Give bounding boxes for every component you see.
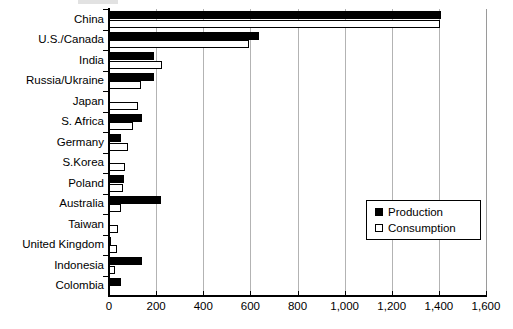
y-tick-13 [103, 276, 109, 277]
bar-production-germany [109, 134, 121, 142]
category-label-colombia: Colombia [0, 279, 104, 291]
bar-production-united-kingdom [109, 237, 111, 245]
y-tick-12 [103, 255, 109, 256]
x-tick-1600 [486, 291, 487, 296]
bar-production-australia [109, 196, 161, 204]
y-tick-4 [103, 91, 109, 92]
x-tick-label-400: 400 [194, 300, 213, 313]
bar-production-poland [109, 175, 124, 183]
bar-production-colombia [109, 278, 121, 286]
bar-production-russia-ukraine [109, 73, 154, 81]
legend-item-consumption: Consumption [375, 220, 480, 236]
category-label-u-s-canada: U.S./Canada [0, 33, 104, 45]
top-edge-artifact [78, 0, 118, 4]
bar-consumption-australia [109, 204, 121, 212]
bar-production-indonesia [109, 257, 142, 265]
filled-square-icon [375, 208, 383, 216]
y-tick-8 [103, 173, 109, 174]
x-tick-400 [203, 291, 204, 296]
legend-label-consumption: Consumption [388, 222, 456, 234]
open-square-icon [375, 224, 383, 232]
y-tick-10 [103, 214, 109, 215]
x-tick-label-200: 200 [147, 300, 166, 313]
bar-consumption-japan [109, 102, 138, 110]
y-tick-5 [103, 112, 109, 113]
y-tick-6 [103, 132, 109, 133]
bar-production-u-s-canada [109, 32, 259, 40]
bar-consumption-united-kingdom [109, 245, 117, 253]
bar-consumption-s-africa [109, 122, 133, 130]
x-tick-label-1600: 1,600 [472, 300, 501, 313]
bar-consumption-germany [109, 143, 128, 151]
category-label-russia-ukraine: Russia/Ukraine [0, 74, 104, 86]
bar-production-china [109, 11, 441, 19]
y-tick-7 [103, 153, 109, 154]
bar-consumption-s-korea [109, 163, 125, 171]
gridline-1600 [486, 9, 487, 296]
y-tick-3 [103, 71, 109, 72]
x-tick-800 [298, 291, 299, 296]
chart-legend: Production Consumption [366, 200, 481, 240]
y-tick-0 [103, 9, 109, 10]
bar-consumption-u-s-canada [109, 40, 249, 48]
plot-area [109, 9, 486, 296]
x-tick-1200 [392, 291, 393, 296]
category-label-united-kingdom: United Kingdom [0, 238, 104, 250]
gridline-1400 [439, 9, 440, 296]
gridline-800 [298, 9, 299, 296]
x-tick-200 [156, 291, 157, 296]
bar-consumption-china [109, 20, 440, 28]
y-tick-2 [103, 50, 109, 51]
bar-chart: ChinaU.S./CanadaIndiaRussia/UkraineJapan… [0, 0, 513, 329]
bar-consumption-india [109, 61, 162, 69]
bar-production-india [109, 52, 154, 60]
category-label-china: China [0, 13, 104, 25]
x-tick-label-1000: 1,000 [330, 300, 359, 313]
x-tick-label-1200: 1,200 [377, 300, 406, 313]
category-label-indonesia: Indonesia [0, 259, 104, 271]
x-tick-label-0: 0 [106, 300, 112, 313]
gridline-1000 [345, 9, 346, 296]
legend-item-production: Production [375, 204, 480, 220]
x-tick-0 [109, 291, 110, 296]
y-tick-9 [103, 194, 109, 195]
bar-consumption-taiwan [109, 225, 118, 233]
gridline-200 [156, 9, 157, 296]
y-tick-1 [103, 30, 109, 31]
bar-production-s-africa [109, 114, 142, 122]
category-label-s-korea: S.Korea [0, 156, 104, 168]
category-label-poland: Poland [0, 177, 104, 189]
x-tick-1400 [439, 291, 440, 296]
category-label-australia: Australia [0, 197, 104, 209]
x-tick-label-1400: 1,400 [424, 300, 453, 313]
x-tick-600 [250, 291, 251, 296]
gridline-600 [250, 9, 251, 296]
bar-consumption-poland [109, 184, 123, 192]
category-label-s-africa: S. Africa [0, 115, 104, 127]
category-label-taiwan: Taiwan [0, 218, 104, 230]
x-tick-label-600: 600 [241, 300, 260, 313]
bar-consumption-indonesia [109, 266, 115, 274]
category-label-india: India [0, 54, 104, 66]
gridline-400 [203, 9, 204, 296]
x-tick-1000 [345, 291, 346, 296]
bar-consumption-russia-ukraine [109, 81, 141, 89]
legend-label-production: Production [388, 206, 443, 218]
x-tick-label-800: 800 [288, 300, 307, 313]
gridline-1200 [392, 9, 393, 296]
y-tick-11 [103, 235, 109, 236]
category-label-japan: Japan [0, 95, 104, 107]
category-label-germany: Germany [0, 136, 104, 148]
